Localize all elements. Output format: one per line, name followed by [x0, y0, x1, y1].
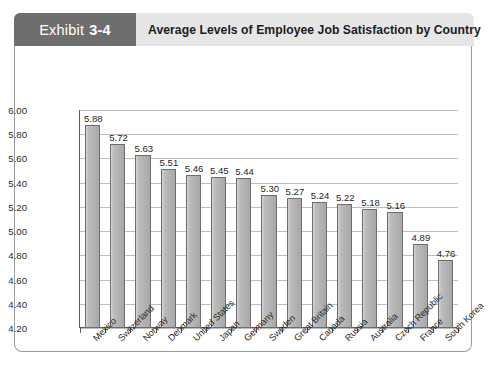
bar — [387, 212, 402, 328]
exhibit-header: Exhibit 3-4 Average Levels of Employee J… — [14, 13, 474, 47]
bar — [261, 195, 276, 328]
bar-slot: 5.51 — [161, 110, 176, 328]
chart-frame: 6.005.805.605.405.205.004.804.604.404.20… — [14, 46, 472, 352]
y-axis-tick-label: 5.20 — [0, 201, 27, 212]
y-axis-tick-label: 4.20 — [0, 323, 27, 334]
bar-slot: 5.24 — [312, 110, 327, 328]
bar-value-label: 4.76 — [437, 248, 456, 259]
bar-value-label: 4.89 — [412, 232, 431, 243]
bar-slot: 5.27 — [287, 110, 302, 328]
exhibit-title: Average Levels of Employee Job Satisfact… — [148, 13, 481, 47]
bar — [186, 175, 201, 328]
y-axis-tick-label: 4.40 — [0, 298, 27, 309]
y-axis-tick-label: 6.00 — [0, 105, 27, 116]
plot-area: 6.005.805.605.405.205.004.804.604.404.20… — [79, 110, 457, 328]
bar-slot: 5.45 — [211, 110, 226, 328]
bar-slot: 5.63 — [135, 110, 150, 328]
bar-slot: 5.30 — [261, 110, 276, 328]
bar-value-label: 5.45 — [210, 165, 229, 176]
bar — [362, 209, 377, 328]
bar — [110, 144, 125, 328]
bar-slot: 5.18 — [362, 110, 377, 328]
y-axis-tick-label: 4.60 — [0, 274, 27, 285]
bar-value-label: 5.51 — [160, 157, 179, 168]
bar — [161, 169, 176, 328]
bar-value-label: 5.24 — [311, 190, 330, 201]
exhibit-chart-figure: Exhibit 3-4 Average Levels of Employee J… — [0, 0, 488, 368]
bar-value-label: 5.63 — [134, 143, 153, 154]
bar — [337, 204, 352, 328]
bar — [287, 198, 302, 328]
bar — [85, 125, 100, 328]
y-axis-tick-label: 5.00 — [0, 226, 27, 237]
bar-slot: 5.88 — [85, 110, 100, 328]
y-axis-tick-label: 5.60 — [0, 153, 27, 164]
exhibit-number: 3-4 — [89, 22, 111, 38]
bar-value-label: 5.46 — [185, 163, 204, 174]
bar-series: 5.885.725.635.515.465.455.445.305.275.24… — [80, 110, 458, 328]
bar-value-label: 5.16 — [386, 200, 405, 211]
bar-slot: 4.89 — [413, 110, 428, 328]
bar-slot: 5.46 — [186, 110, 201, 328]
bar-value-label: 5.44 — [235, 166, 254, 177]
bar-value-label: 5.30 — [260, 183, 279, 194]
bar — [236, 178, 251, 328]
bar-value-label: 5.22 — [336, 192, 355, 203]
bar-value-label: 5.18 — [361, 197, 380, 208]
bar-value-label: 5.72 — [109, 132, 128, 143]
bar-slot: 5.44 — [236, 110, 251, 328]
y-axis-tick-label: 4.80 — [0, 250, 27, 261]
y-axis-tick-label: 5.40 — [0, 177, 27, 188]
y-axis-tick-label: 5.80 — [0, 129, 27, 140]
bar-slot: 5.16 — [387, 110, 402, 328]
x-axis-tick — [80, 328, 81, 333]
bar-value-label: 5.88 — [84, 113, 103, 124]
bar-slot: 5.72 — [110, 110, 125, 328]
bar-slot: 5.22 — [337, 110, 352, 328]
exhibit-number-tab: Exhibit 3-4 — [14, 13, 136, 47]
exhibit-label: Exhibit — [39, 22, 84, 38]
bar-value-label: 5.27 — [286, 186, 305, 197]
